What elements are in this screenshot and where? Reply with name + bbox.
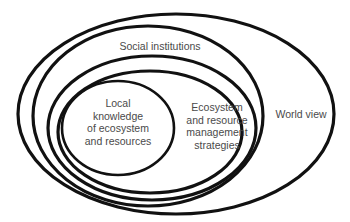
social-institutions-text: Social institutions [100,40,220,53]
ecosystem-line-4: strategies [178,139,256,152]
ecosystem-management-label: Ecosystem and resource management strate… [178,101,256,151]
world-view-label: World view [268,108,334,121]
ecosystem-line-2: and resource [178,114,256,127]
local-knowledge-label: Local knowledge of ecosystem and resourc… [68,97,168,147]
ecosystem-line-1: Ecosystem [178,101,256,114]
nested-ellipse-diagram: Social institutions World view Ecosystem… [0,0,350,222]
social-institutions-label: Social institutions [100,40,220,53]
local-knowledge-line-1: Local [68,97,168,110]
local-knowledge-line-3: of ecosystem [68,122,168,135]
local-knowledge-line-4: and resources [68,135,168,148]
ecosystem-line-3: management [178,126,256,139]
local-knowledge-line-2: knowledge [68,110,168,123]
world-view-text: World view [268,108,334,121]
